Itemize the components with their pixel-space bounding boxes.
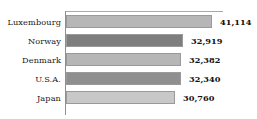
bar-track: 30,760 (66, 89, 257, 107)
bar-category-label: Luxembourg (0, 13, 61, 31)
bar-denmark (66, 53, 181, 66)
bar-row: Japan 30,760 (0, 89, 257, 107)
bar-category-label: Norway (0, 32, 61, 50)
bar-norway (66, 34, 183, 47)
bar-track: 32,382 (66, 51, 257, 69)
bar-row: Norway 32,919 (0, 32, 257, 50)
bar-luxembourg (66, 15, 212, 28)
bar-chart: Luxembourg 41,114 Norway 32,919 Denmark … (0, 0, 257, 119)
bar-rows-container: Luxembourg 41,114 Norway 32,919 Denmark … (0, 13, 257, 108)
bar-row: U.S.A. 32,340 (0, 70, 257, 88)
bar-usa (66, 72, 181, 85)
bar-category-label: U.S.A. (0, 70, 61, 88)
bar-value-label: 41,114 (220, 13, 251, 31)
bar-category-label: Japan (0, 89, 61, 107)
bar-row: Denmark 32,382 (0, 51, 257, 69)
bar-track: 41,114 (66, 13, 257, 31)
bar-value-label: 32,919 (191, 32, 222, 50)
bar-japan (66, 91, 175, 104)
chart-top-rule (65, 11, 223, 12)
bar-value-label: 30,760 (183, 89, 214, 107)
bar-value-label: 32,340 (189, 70, 220, 88)
bar-track: 32,340 (66, 70, 257, 88)
bar-row: Luxembourg 41,114 (0, 13, 257, 31)
bar-track: 32,919 (66, 32, 257, 50)
bar-category-label: Denmark (0, 51, 61, 69)
bar-value-label: 32,382 (189, 51, 220, 69)
